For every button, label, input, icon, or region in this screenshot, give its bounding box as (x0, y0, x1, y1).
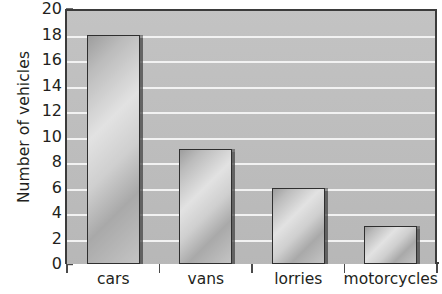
bar (179, 149, 232, 264)
x-axis-tick-label: vans (187, 272, 224, 288)
y-axis-tick-label: 0 (22, 256, 62, 272)
bar (364, 226, 417, 264)
y-axis-tick-label: 8 (22, 154, 62, 170)
y-axis-tick-label: 10 (22, 129, 62, 145)
x-axis-tick-mark (66, 264, 68, 273)
y-axis-tick-label: 2 (22, 231, 62, 247)
x-axis-tick-label: motorcycles (344, 272, 438, 288)
plot-area (67, 9, 437, 264)
x-axis-tick-label: lorries (274, 272, 322, 288)
y-axis-tick-label: 20 (22, 1, 62, 17)
y-axis-tick-labels: 02468101214161820 (22, 0, 62, 294)
x-axis-tick-mark (251, 264, 253, 273)
y-axis-tick-label: 16 (22, 52, 62, 68)
y-axis-tick-label: 6 (22, 180, 62, 196)
bar (87, 35, 140, 265)
y-axis-tick-label: 12 (22, 103, 62, 119)
y-axis-tick-label: 18 (22, 27, 62, 43)
y-axis-tick-label: 14 (22, 78, 62, 94)
y-axis-tick-label: 4 (22, 205, 62, 221)
x-axis-tick-mark (159, 264, 161, 273)
bar-chart: Number of vehicles 02468101214161820 car… (0, 0, 442, 294)
bar (272, 188, 325, 265)
x-axis-tick-label: cars (97, 272, 129, 288)
